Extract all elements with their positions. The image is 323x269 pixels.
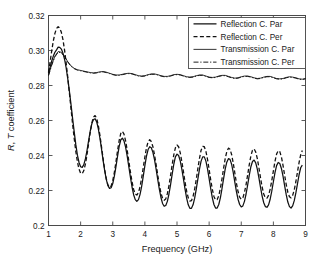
x-tick-label: 3 xyxy=(110,230,115,239)
y-tick-label: 0.26 xyxy=(29,117,45,126)
figure-container: 1234567890.20.220.240.260.280.300.32Freq… xyxy=(0,0,323,269)
x-tick-label: 5 xyxy=(175,230,180,239)
legend-label-3: Transmission C. Per xyxy=(221,58,295,67)
x-tick-label: 1 xyxy=(46,230,51,239)
legend-label-1: Reflection C. Per xyxy=(221,33,283,42)
legend-label-2: Transmission C. Par xyxy=(221,45,295,54)
x-axis-title: Frequency (GHz) xyxy=(142,244,212,254)
legend-label-0: Reflection C. Par xyxy=(221,20,283,29)
y-tick-label: 0.24 xyxy=(29,152,45,161)
y-tick-label: 0.32 xyxy=(29,12,45,21)
y-tick-label: 0.28 xyxy=(29,82,45,91)
y-tick-label: 0.22 xyxy=(29,187,45,196)
y-tick-label: 0.2 xyxy=(33,222,45,231)
x-tick-label: 7 xyxy=(239,230,244,239)
x-tick-label: 2 xyxy=(78,230,83,239)
x-tick-label: 9 xyxy=(303,230,308,239)
y-axis-title-rest: coefficient xyxy=(6,89,16,133)
x-tick-label: 4 xyxy=(143,230,148,239)
x-tick-label: 8 xyxy=(271,230,276,239)
y-tick-label: 0.30 xyxy=(29,47,45,56)
chart-canvas: 1234567890.20.220.240.260.280.300.32Freq… xyxy=(0,0,323,269)
y-axis-title: R, T coefficient xyxy=(6,89,16,151)
x-tick-label: 6 xyxy=(207,230,212,239)
